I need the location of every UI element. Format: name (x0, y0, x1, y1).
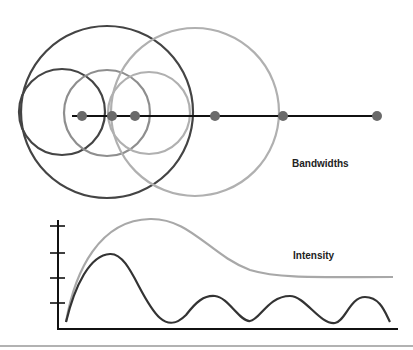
small-dark-circle (19, 69, 105, 155)
bandwidth-intensity-diagram (0, 0, 413, 350)
bandwidth-circles (19, 26, 279, 198)
dot (130, 111, 140, 121)
dot (210, 111, 220, 121)
dot (372, 111, 382, 121)
intensity-chart (50, 219, 398, 330)
intensity-label: Intensity (293, 250, 334, 261)
dot (278, 111, 288, 121)
bandwidths-label: Bandwidths (292, 158, 349, 169)
intensity-curve (66, 254, 390, 323)
dot (107, 111, 117, 121)
dot (77, 111, 87, 121)
